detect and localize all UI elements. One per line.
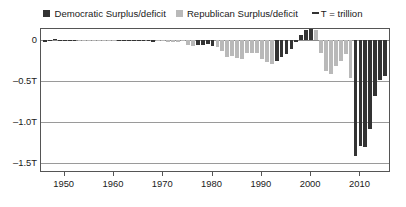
bar: [260, 40, 264, 58]
bar: [156, 40, 160, 41]
bar: [368, 40, 372, 129]
bar: [63, 40, 67, 41]
legend-swatch-republican: [176, 10, 183, 17]
bar: [206, 40, 210, 43]
bar: [378, 40, 382, 80]
bar: [78, 40, 82, 41]
bar: [255, 40, 259, 53]
bar: [191, 40, 195, 46]
bar: [117, 40, 121, 41]
bar: [122, 40, 126, 41]
bar: [87, 40, 91, 41]
bar: [53, 39, 57, 40]
y-axis-tick-label: –0.5T: [13, 75, 37, 86]
bar: [132, 40, 136, 41]
bar: [319, 40, 323, 53]
x-axis-tick-label: 1990: [250, 178, 271, 189]
x-axis-tick: [310, 172, 311, 176]
bar: [147, 40, 151, 41]
x-axis-tick-label: 2000: [300, 178, 321, 189]
x-axis-tick: [261, 172, 262, 176]
x-axis-tick: [162, 172, 163, 176]
x-axis-tick-label: 1970: [152, 178, 173, 189]
legend-swatch-democratic: [43, 10, 50, 17]
bar: [142, 40, 146, 41]
bar: [294, 40, 298, 42]
bar: [151, 40, 155, 42]
bar: [373, 40, 377, 96]
bar: [329, 40, 333, 74]
bar: [216, 40, 220, 46]
bar: [265, 40, 269, 62]
bar: [290, 40, 294, 49]
bar: [58, 40, 62, 41]
x-axis-tick: [359, 172, 360, 176]
bar: [73, 40, 77, 41]
bar: [314, 30, 318, 40]
bar: [334, 40, 338, 66]
y-axis-labels: 0–0.5T–1.0T–1.5T: [0, 0, 37, 207]
bar: [299, 35, 303, 41]
bar: [127, 40, 131, 41]
legend-unit-note: T = trillion: [312, 8, 363, 19]
bar: [309, 28, 313, 40]
bar: [383, 40, 387, 76]
bar: [324, 40, 328, 71]
bar: [201, 40, 205, 45]
legend-item-republican: Republican Surplus/deficit: [176, 8, 298, 19]
bar: [92, 40, 96, 41]
x-axis-tick-label: 1950: [53, 178, 74, 189]
bar: [166, 40, 170, 42]
bar: [181, 40, 185, 41]
bar: [112, 40, 116, 41]
bar: [240, 40, 244, 58]
bar: [220, 40, 224, 50]
bar: [230, 40, 234, 55]
legend-label-republican: Republican Surplus/deficit: [187, 8, 298, 19]
bar: [245, 40, 249, 52]
bar: [176, 40, 180, 41]
y-axis-tick-label: –1.0T: [13, 116, 37, 127]
bar: [43, 40, 47, 41]
bar: [137, 40, 141, 41]
bar: [48, 40, 52, 41]
dash-icon: [312, 12, 319, 13]
x-axis-tick-label: 2010: [349, 178, 370, 189]
bar: [107, 40, 111, 41]
x-axis-tick-label: 1980: [201, 178, 222, 189]
x-axis-tick: [64, 172, 65, 176]
bar: [171, 40, 175, 42]
bar: [97, 40, 101, 41]
y-axis-tick-label: –1.5T: [13, 157, 37, 168]
bar: [235, 40, 239, 57]
bar: [304, 30, 308, 40]
chart-figure: Democratic Surplus/deficit Republican Su…: [0, 0, 406, 207]
plot-area: [40, 28, 390, 172]
bar-group: [41, 29, 389, 171]
x-axis-tick-label: 1960: [103, 178, 124, 189]
bar: [68, 40, 72, 41]
bar: [211, 40, 215, 46]
bar: [270, 40, 274, 64]
bar: [82, 40, 86, 41]
bar: [275, 40, 279, 61]
bar: [102, 40, 106, 41]
bar: [354, 40, 358, 156]
bar: [339, 40, 343, 60]
bar: [186, 40, 190, 44]
bar: [349, 40, 353, 78]
legend-label-democratic: Democratic Surplus/deficit: [54, 8, 165, 19]
x-axis-tick: [212, 172, 213, 176]
bar: [285, 40, 289, 53]
x-axis: 1950196019701980199020002010: [40, 172, 390, 202]
bar: [344, 40, 348, 53]
bar: [250, 40, 254, 53]
legend-item-democratic: Democratic Surplus/deficit: [43, 8, 165, 19]
chart-legend: Democratic Surplus/deficit Republican Su…: [0, 4, 406, 22]
bar: [225, 40, 229, 57]
bar: [280, 40, 284, 57]
bar: [196, 40, 200, 44]
legend-label-unit: T = trillion: [321, 8, 363, 19]
x-axis-tick: [113, 172, 114, 176]
bar: [359, 40, 363, 146]
